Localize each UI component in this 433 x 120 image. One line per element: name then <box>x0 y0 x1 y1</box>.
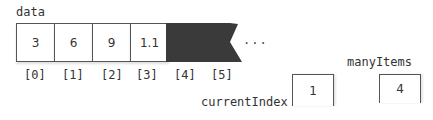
array-index-5: [5] <box>211 68 233 82</box>
many-items-label: manyItems <box>347 55 412 69</box>
current-index-label: currentIndex <box>201 95 288 109</box>
array-cell-1: 6 <box>54 23 92 62</box>
many-items-box: 4 <box>379 74 421 103</box>
array-index-0: [0] <box>24 68 46 82</box>
array-continuation-ellipsis: ... <box>243 33 268 47</box>
array-cell-2: 9 <box>92 23 130 62</box>
array-index-2: [2] <box>101 68 123 82</box>
array-index-1: [1] <box>62 68 84 82</box>
current-index-box: 1 <box>292 74 334 106</box>
unused-array-region <box>166 23 242 62</box>
array-name-label: data <box>16 5 45 19</box>
array-index-4: [4] <box>174 68 196 82</box>
array-cell-0: 3 <box>16 23 54 62</box>
array-cell-3: 1.1 <box>130 23 169 62</box>
data-array: 3 6 9 1.1 <box>16 23 169 62</box>
array-index-3: [3] <box>136 68 158 82</box>
